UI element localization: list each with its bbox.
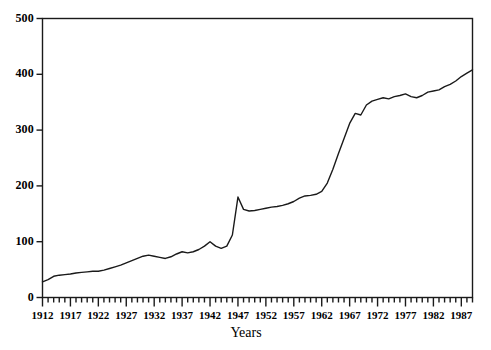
x-axis-tick-label: 1987 (441, 309, 481, 321)
y-axis-tick-label: 300 (0, 122, 34, 137)
y-axis-tick-label: 400 (0, 66, 34, 81)
y-axis-tick-label: 100 (0, 234, 34, 249)
plot-frame (43, 19, 473, 298)
plot-area (0, 0, 491, 350)
y-axis-ticks (37, 19, 43, 298)
y-axis-tick-label: 0 (0, 290, 34, 305)
data-series-line (43, 70, 473, 282)
x-axis-ticks (43, 298, 473, 307)
y-axis-tick-label: 500 (0, 11, 34, 26)
x-axis-title: Years (186, 325, 306, 341)
y-axis-tick-label: 200 (0, 178, 34, 193)
line-chart: 0100200300400500 19121917192219271932193… (0, 0, 491, 350)
